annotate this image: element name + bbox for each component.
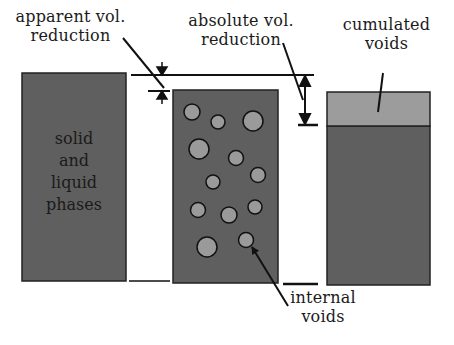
- absolute-reduction-label: absolute vol. reduction: [176, 11, 306, 49]
- cumulated-voids-label: cumulated voids: [339, 15, 434, 53]
- internal-voids-label: internal voids: [283, 288, 363, 326]
- solid-liquid-label: solid and liquid phases: [22, 128, 126, 216]
- absolute-pointer-line: [283, 43, 303, 100]
- cumulated-solid-box: [327, 126, 430, 285]
- absolute-reduction-arrow: [300, 76, 310, 124]
- apparent-reduction-label: apparent vol. reduction: [8, 7, 133, 45]
- apparent-pointer-line: [123, 38, 164, 88]
- apparent-reduction-arrows: [157, 62, 167, 104]
